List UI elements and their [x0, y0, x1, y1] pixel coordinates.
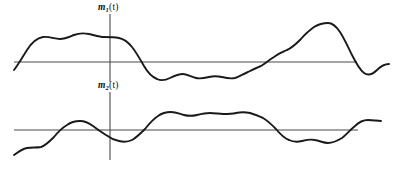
signal-waveform-figure: m1(t) m2(t)	[0, 0, 406, 175]
signal-1-label: m1(t)	[98, 2, 119, 13]
signal-2-label: m2(t)	[98, 80, 119, 91]
m2-signal-curve	[14, 112, 381, 155]
signal-2-base: m	[98, 80, 106, 90]
signal-2-argument: (t)	[109, 80, 119, 90]
m1-signal-curve	[14, 23, 389, 80]
plot-m1	[14, 14, 389, 82]
signal-1-base: m	[98, 2, 106, 12]
waveform-canvas	[0, 0, 406, 175]
plot-m2	[14, 92, 381, 160]
signal-1-argument: (t)	[109, 2, 119, 12]
